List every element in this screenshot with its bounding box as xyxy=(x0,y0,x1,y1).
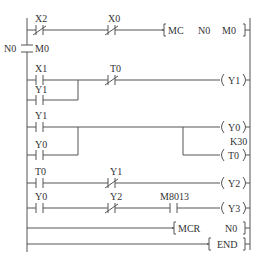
contact-y1-no xyxy=(27,122,43,132)
mcr-instruction: MCR N0 xyxy=(172,222,250,234)
contact-y1-label: Y1 xyxy=(35,110,47,121)
svg-text:MC: MC xyxy=(168,25,184,36)
contact-y1-seal-label: Y1 xyxy=(35,84,47,95)
contact-x0-label: X0 xyxy=(108,13,120,24)
contact-t0-label: T0 xyxy=(110,63,121,74)
svg-text:END: END xyxy=(217,239,238,250)
svg-text:Y2: Y2 xyxy=(228,178,240,189)
contact-t0-no xyxy=(27,178,43,188)
svg-text:N0: N0 xyxy=(198,25,210,36)
mc-instruction: MC N0 M0 xyxy=(162,24,250,36)
contact-y0-label: Y0 xyxy=(35,191,47,202)
ladder-diagram: N0 M0 X2 X0 MC N0 M0 X1 xyxy=(0,0,256,261)
rung-6: MCR N0 xyxy=(27,222,250,234)
svg-text:MCR: MCR xyxy=(178,223,201,234)
svg-text:Y0: Y0 xyxy=(228,122,240,133)
mc-contact-n0-m0: N0 M0 xyxy=(4,43,49,54)
contact-x1-label: X1 xyxy=(35,63,47,74)
rung-1: X2 X0 MC N0 M0 xyxy=(27,13,250,36)
contact-m8013-no xyxy=(170,203,177,213)
contact-t0-no-label: T0 xyxy=(35,166,46,177)
svg-text:Y3: Y3 xyxy=(228,203,240,214)
contact-y0-seal-label: Y0 xyxy=(35,139,47,150)
timer-coil-t0: T0 xyxy=(222,149,251,161)
rung-3: Y1 Y0 Y0 K30 T0 xyxy=(27,110,250,161)
timer-preset-k30: K30 xyxy=(230,136,247,147)
rung-5: Y0 Y2 M8013 Y3 xyxy=(27,191,250,214)
coil-y1: Y1 xyxy=(222,74,251,86)
svg-text:Y1: Y1 xyxy=(228,75,240,86)
contact-y2-nc-label: Y2 xyxy=(110,191,122,202)
svg-text:T0: T0 xyxy=(228,150,239,161)
contact-m8013-label: M8013 xyxy=(160,191,189,202)
mc-relay-label: M0 xyxy=(35,43,49,54)
coil-y3: Y3 xyxy=(222,202,251,214)
rung-7: END xyxy=(27,238,250,250)
svg-text:M0: M0 xyxy=(222,25,236,36)
contact-y0-no xyxy=(27,203,43,213)
coil-y0: Y0 xyxy=(222,121,251,133)
rung-4: T0 Y1 Y2 xyxy=(27,166,250,189)
svg-text:N0: N0 xyxy=(225,223,237,234)
end-instruction: END xyxy=(207,238,250,250)
rung-2: X1 Y1 T0 Y1 xyxy=(27,63,250,105)
contact-x2-label: X2 xyxy=(35,13,47,24)
mc-nest-label: N0 xyxy=(4,43,16,54)
coil-y2: Y2 xyxy=(222,177,251,189)
contact-y1-nc-label: Y1 xyxy=(110,166,122,177)
